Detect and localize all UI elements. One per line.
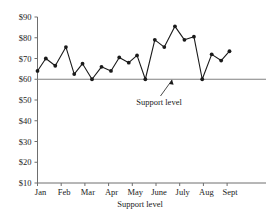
y-axis-tick-labels: $10$20$30$40$50$60$70$80$90 — [19, 12, 32, 188]
y-axis-tick-label: $90 — [19, 12, 32, 22]
y-axis-tick-label: $10 — [19, 178, 32, 188]
y-axis-tick-label: $60 — [19, 74, 32, 84]
data-point-marker — [200, 77, 204, 81]
y-axis-tick-label: $70 — [19, 54, 32, 64]
y-axis-tick-label: $50 — [19, 95, 32, 105]
x-axis-tick-labels: JanFebMarAprMayJuneJulyAugSept — [35, 187, 238, 197]
support-level-annotation-label: Support level — [136, 97, 182, 107]
stock-price-line-chart: $10$20$30$40$50$60$70$80$90 JanFebMarApr… — [0, 0, 271, 219]
data-point-marker — [72, 72, 76, 76]
price-series-line — [38, 26, 230, 79]
x-axis-tick-label: Mar — [81, 187, 95, 197]
data-point-marker — [228, 49, 232, 53]
data-point-marker — [44, 57, 48, 61]
x-axis-tick-label: May — [128, 187, 144, 197]
data-point-marker — [90, 77, 94, 81]
x-axis-tick-label: Apr — [105, 187, 118, 197]
x-axis-title: Support level — [117, 199, 163, 209]
data-point-marker — [162, 45, 166, 49]
x-axis-tick-label: Sept — [223, 187, 239, 197]
data-point-marker — [153, 38, 157, 42]
data-point-marker — [53, 64, 57, 68]
data-point-marker — [109, 69, 113, 73]
data-point-marker — [192, 35, 196, 39]
x-axis-tick-label: Aug — [199, 187, 214, 197]
x-axis-tick-label: July — [176, 187, 191, 197]
data-point-marker — [173, 24, 177, 28]
x-axis-tick-label: Feb — [58, 187, 71, 197]
y-axis-tick-label: $40 — [19, 116, 32, 126]
data-point-marker — [127, 61, 131, 65]
chart-figure: $10$20$30$40$50$60$70$80$90 JanFebMarApr… — [0, 0, 271, 219]
x-axis-tick-label: Jan — [35, 187, 47, 197]
data-point-marker — [219, 59, 223, 63]
data-point-marker — [100, 65, 104, 69]
data-point-marker — [143, 77, 147, 81]
x-axis-tick-label: June — [151, 187, 167, 197]
y-axis-tick-label: $80 — [19, 33, 32, 43]
data-point-marker — [36, 69, 40, 73]
price-series-markers — [36, 24, 232, 81]
data-point-marker — [117, 56, 121, 60]
data-point-marker — [64, 45, 68, 49]
data-point-marker — [135, 53, 139, 57]
y-axis-tick-label: $20 — [19, 157, 32, 167]
data-point-marker — [183, 38, 187, 42]
data-point-marker — [81, 62, 85, 66]
data-point-marker — [210, 52, 214, 56]
y-axis-tick-label: $30 — [19, 137, 32, 147]
